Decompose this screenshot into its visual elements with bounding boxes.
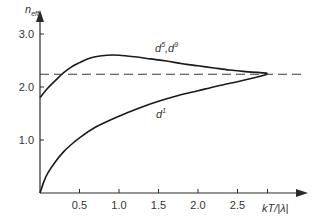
y-tick-label: 3.0 [19, 28, 34, 40]
x-axis-arrow-icon [296, 189, 308, 197]
annotation-d5-d9: d5,d9 [155, 41, 178, 54]
series-d1 [40, 74, 268, 193]
x-tick-label: 2.0 [190, 199, 205, 211]
x-axis-label: kT/|λ| [262, 202, 289, 214]
y-tick-label: 2.0 [19, 81, 34, 93]
y-axis-label: neff [25, 3, 40, 17]
x-tick-label: 0.5 [72, 199, 87, 211]
x-tick-label: 1.5 [151, 199, 166, 211]
axis-ticks [40, 34, 268, 193]
x-tick-label: 1.0 [111, 199, 126, 211]
x-tick-label: 2.5 [230, 199, 245, 211]
chart-canvas: 0.51.01.52.02.51.02.03.0 neff kT/|λ| d5,… [0, 0, 318, 219]
y-tick-label: 1.0 [19, 134, 34, 146]
axis-tick-labels: 0.51.01.52.02.51.02.03.0 [19, 28, 245, 211]
chart-series [40, 55, 305, 193]
series-d5-d9 [40, 55, 268, 98]
annotation-d1: d1 [156, 107, 166, 120]
